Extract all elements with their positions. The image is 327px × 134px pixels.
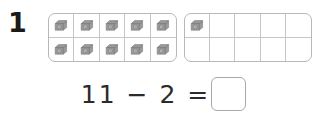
grey-block-counter-icon <box>105 43 119 56</box>
ten-frame-cell <box>235 14 260 38</box>
ten-frame-cell <box>286 38 311 62</box>
ten-frame-cell <box>286 14 311 38</box>
problem-number: 1 <box>8 9 26 36</box>
ten-frame-cell <box>185 38 210 62</box>
grey-block-counter-icon <box>54 43 68 56</box>
worksheet-page: 1 11 − 2 = <box>0 0 327 134</box>
grey-block-counter-icon <box>130 43 144 56</box>
grey-block-counter-icon <box>80 43 94 56</box>
ten-frame-cell <box>261 14 286 38</box>
grey-block-counter-icon <box>80 19 94 32</box>
ten-frame-cell <box>49 14 74 38</box>
ten-frame-cell <box>49 38 74 62</box>
ten-frame-cell <box>185 14 210 38</box>
ten-frame-cell <box>210 14 235 38</box>
grey-block-counter-icon <box>190 19 204 32</box>
ten-frame-cell <box>125 38 150 62</box>
second-ten-frame <box>184 13 312 62</box>
ten-frame-cell <box>74 14 99 38</box>
answer-input-box[interactable] <box>211 77 246 111</box>
ten-frame-cell <box>74 38 99 62</box>
ten-frame-cell <box>125 14 150 38</box>
ten-frame-cell <box>235 38 260 62</box>
ten-frame-cell <box>151 38 176 62</box>
ten-frame-cell <box>100 14 125 38</box>
first-ten-frame <box>48 13 177 62</box>
ten-frame-cell <box>151 14 176 38</box>
equation-expression: 11 − 2 = <box>81 82 210 107</box>
ten-frame-cell <box>210 38 235 62</box>
grey-block-counter-icon <box>156 19 170 32</box>
grey-block-counter-icon <box>105 19 119 32</box>
ten-frame-cell <box>100 38 125 62</box>
ten-frame-cell <box>261 38 286 62</box>
grey-block-counter-icon <box>130 19 144 32</box>
grey-block-counter-icon <box>156 43 170 56</box>
grey-block-counter-icon <box>54 19 68 32</box>
equation-row: 11 − 2 = <box>0 74 327 114</box>
